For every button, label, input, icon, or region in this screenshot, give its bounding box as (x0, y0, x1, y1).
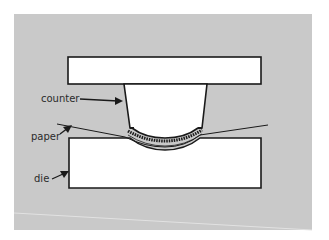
scan-artifact-line (14, 213, 312, 230)
die-label: die (34, 174, 49, 184)
die (69, 138, 261, 188)
counter (124, 84, 207, 138)
press-diagram (0, 0, 329, 240)
upper-plate (68, 57, 261, 84)
paper-label: paper (31, 132, 60, 142)
die-arrow (52, 174, 63, 179)
paper-arrowhead-icon (63, 125, 72, 133)
counter-label: counter (41, 94, 79, 104)
counter-arrow (80, 99, 118, 101)
counter-arrowhead-icon (115, 97, 123, 105)
